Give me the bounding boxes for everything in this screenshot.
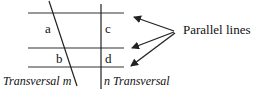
callout-arrow-3 (131, 33, 175, 66)
angle-label-a: a (45, 21, 51, 36)
callout-arrow-1 (134, 17, 174, 31)
angle-label-d: d (105, 51, 112, 66)
transversal-n-label: n Transversal (104, 74, 170, 88)
parallel-lines-diagram: a b c d Transversal m n Transversal Para… (0, 0, 259, 93)
parallel-lines-label: Parallel lines (183, 22, 251, 37)
transversal-m-label: Transversal m (3, 74, 72, 88)
angle-label-c: c (105, 21, 111, 36)
angle-label-b: b (56, 51, 63, 66)
callout-arrow-2 (132, 32, 174, 48)
